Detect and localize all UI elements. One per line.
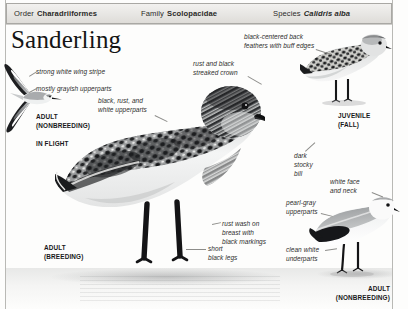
- annotation-streaked-crown: rust and black streaked crown: [193, 60, 238, 78]
- left-margin-rule: [5, 0, 6, 309]
- annotation-black-legs: short black legs: [208, 245, 237, 263]
- nonbreeding-sanderling-icon: [308, 190, 400, 278]
- annotation-black-rust-white: black, rust, and white upperparts: [98, 97, 147, 115]
- annotation-clean-white: clean white underparts: [286, 246, 319, 264]
- annotation-grayish-upperparts: mostly grayish upperparts: [36, 85, 112, 94]
- leader-black-legs: [186, 249, 206, 250]
- plate-label-in-flight: IN FLIGHT: [36, 139, 69, 148]
- order-label: Order: [14, 9, 34, 18]
- annotation-stocky-bill: dark stocky bill: [294, 152, 313, 178]
- order-value: Charadriiformes: [37, 9, 97, 18]
- annotation-rust-wash: rust wash on breast with black markings: [222, 220, 266, 246]
- species-value: Calidris alba: [304, 9, 350, 18]
- plate-label-nonbreeding-adult: ADULT (NONBREEDING): [298, 284, 390, 302]
- field-guide-page: Order Charadriiformes Family Scolopacida…: [0, 0, 408, 309]
- plate-label-juvenile: JUVENILE (FALL): [338, 111, 370, 129]
- family-value: Scolopacidae: [167, 9, 217, 18]
- page-title: Sanderling: [11, 26, 121, 54]
- water-ripples: [80, 276, 280, 302]
- plate-label-flight-adult: ADULT (NONBREEDING): [36, 112, 90, 130]
- taxonomy-header-bar: Order Charadriiformes Family Scolopacida…: [6, 3, 392, 24]
- header-underline: [6, 24, 392, 25]
- annotation-back-feathers: black-centered back feathers with buff e…: [244, 33, 314, 51]
- taxonomy-cell-order: Order Charadriiformes: [7, 4, 134, 23]
- plate-label-breeding-adult: ADULT (BREEDING): [44, 243, 84, 261]
- annotation-pearl-gray: pearl-gray upperparts: [286, 199, 318, 217]
- family-label: Family: [141, 9, 164, 18]
- taxonomy-cell-family: Family Scolopacidae: [134, 4, 266, 23]
- taxonomy-cell-species: Species Calidris alba: [266, 4, 391, 23]
- annotation-white-face: white face and neck: [330, 178, 360, 196]
- species-label: Species: [273, 9, 301, 18]
- annotation-wing-stripe: strong white wing stripe: [36, 68, 105, 77]
- leader-stocky-bill: [305, 142, 315, 151]
